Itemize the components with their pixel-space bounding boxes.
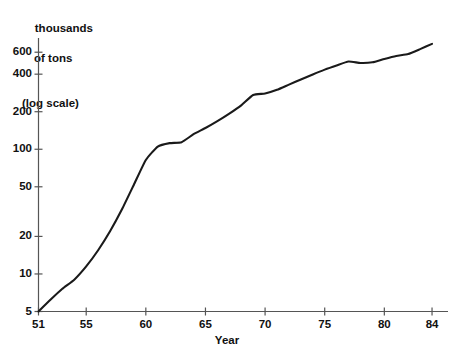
y-tick-label: 5 (2, 305, 32, 317)
chart-svg (0, 0, 454, 361)
x-tick-label: 60 (134, 318, 158, 330)
x-tick-label: 75 (313, 318, 337, 330)
x-tick-label: 84 (420, 318, 444, 330)
data-series-line (39, 44, 433, 312)
y-tick-label: 400 (2, 67, 32, 79)
y-tick-label: 200 (2, 105, 32, 117)
x-axis-label: Year (0, 334, 454, 346)
x-tick-label: 65 (193, 318, 217, 330)
x-tick-label: 80 (372, 318, 396, 330)
y-tick-label: 10 (2, 267, 32, 279)
axes-group (35, 38, 449, 316)
y-tick-label: 50 (2, 180, 32, 192)
y-tick-label: 600 (2, 45, 32, 57)
x-tick-label: 70 (253, 318, 277, 330)
x-tick-label: 51 (27, 318, 51, 330)
x-tick-label: 55 (74, 318, 98, 330)
chart-container: thousands of tons (log scale) 5102050100… (0, 0, 454, 361)
y-tick-label: 100 (2, 142, 32, 154)
y-tick-label: 20 (2, 229, 32, 241)
